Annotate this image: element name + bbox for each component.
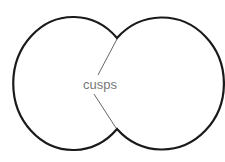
cusps-diagram: cusps [0, 0, 225, 162]
pointer-line-bottom [94, 94, 116, 128]
pointer-line-top [98, 39, 117, 75]
cusps-label: cusps [83, 77, 117, 92]
union-outline [13, 17, 224, 150]
